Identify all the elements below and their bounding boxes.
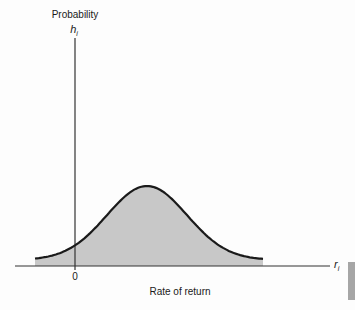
x-symbol-subscript: i bbox=[338, 265, 340, 272]
page-edge-marker bbox=[348, 262, 355, 300]
x-axis-label: Rate of return bbox=[149, 286, 210, 297]
y-axis-label: Probability bbox=[52, 9, 99, 20]
x-axis-symbol: ri bbox=[334, 258, 340, 272]
x-tick-label-zero: 0 bbox=[72, 271, 78, 282]
y-symbol-subscript: i bbox=[76, 30, 78, 37]
probability-chart: Probability hi ri 0 Rate of return bbox=[0, 0, 355, 310]
y-axis-symbol: hi bbox=[70, 23, 78, 37]
distribution-area bbox=[35, 186, 263, 266]
